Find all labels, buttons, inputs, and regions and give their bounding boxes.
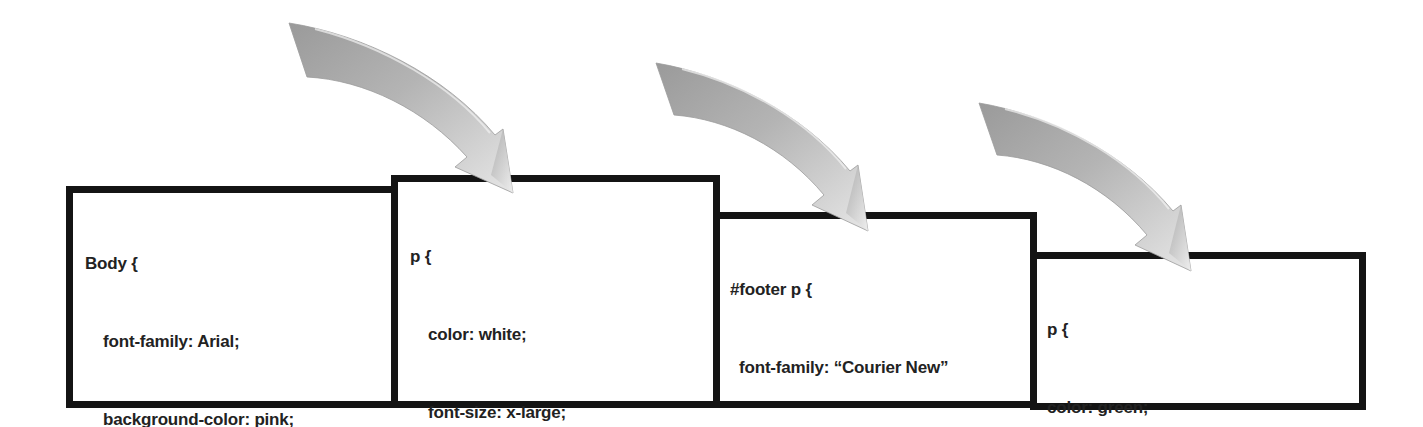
css-rule-code: #footer p { font-family: “Courier New” c…: [730, 225, 948, 427]
code-line: font-family: Arial;: [85, 329, 294, 355]
code-line: Body {: [85, 251, 294, 277]
css-rule-box-body: Body { font-family: Arial; background-co…: [66, 186, 398, 408]
css-rule-box-p-1: p { color: white; font-size: x-large; }: [391, 175, 720, 408]
code-line: font-size: x-large;: [410, 400, 566, 426]
code-line: p {: [410, 244, 566, 270]
css-rule-box-footer-p: #footer p { font-family: “Courier New” c…: [713, 212, 1037, 408]
css-rule-code: Body { font-family: Arial; background-co…: [85, 199, 294, 427]
code-line: background-color: pink;: [85, 407, 294, 427]
code-line: #footer p {: [730, 277, 948, 303]
code-line: color: white;: [410, 322, 566, 348]
css-cascade-diagram: Body { font-family: Arial; background-co…: [0, 0, 1423, 427]
css-rule-box-p-2: p { color: green; }: [1030, 252, 1366, 410]
code-line: font-family: “Courier New”: [730, 355, 948, 381]
css-rule-code: p { color: white; font-size: x-large; }: [410, 192, 566, 427]
code-line: color: green;: [1047, 395, 1148, 421]
curved-arrow-icon: [285, 15, 525, 200]
css-rule-code: p { color: green; }: [1047, 265, 1148, 427]
code-line: p {: [1047, 317, 1148, 343]
